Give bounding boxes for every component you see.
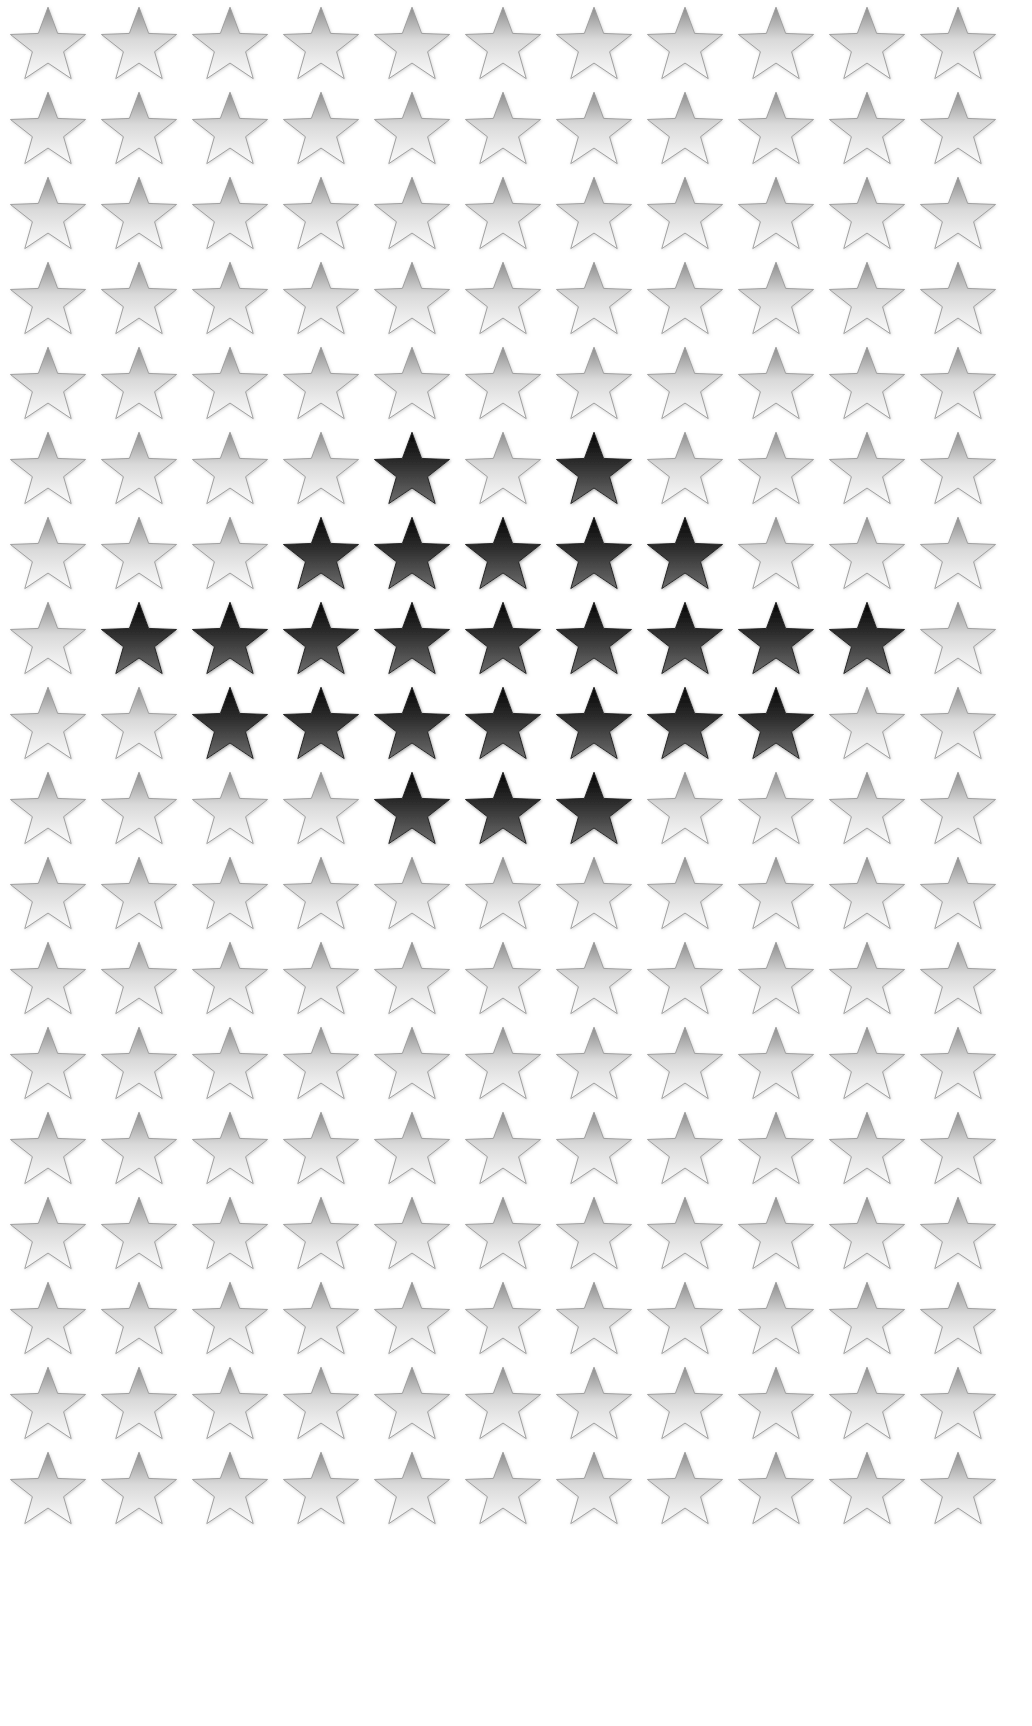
five-pointed-star-icon — [97, 768, 181, 852]
five-pointed-star-icon — [370, 1448, 454, 1532]
five-pointed-star-icon — [279, 1278, 363, 1362]
five-pointed-star-icon — [97, 598, 181, 682]
five-pointed-star-icon — [643, 343, 727, 427]
five-pointed-star-icon — [461, 428, 545, 512]
five-pointed-star-icon — [188, 173, 272, 257]
five-pointed-star-icon — [279, 853, 363, 937]
five-pointed-star-icon — [734, 1023, 818, 1107]
five-pointed-star-icon — [734, 853, 818, 937]
five-pointed-star-icon — [643, 258, 727, 342]
five-pointed-star-icon — [825, 1193, 909, 1277]
five-pointed-star-icon — [552, 853, 636, 937]
five-pointed-star-icon — [643, 1363, 727, 1447]
five-pointed-star-icon — [825, 1108, 909, 1192]
five-pointed-star-icon — [6, 1448, 90, 1532]
five-pointed-star-icon — [97, 513, 181, 597]
five-pointed-star-icon — [279, 258, 363, 342]
five-pointed-star-icon — [188, 1278, 272, 1362]
five-pointed-star-icon — [734, 1193, 818, 1277]
five-pointed-star-icon — [643, 768, 727, 852]
five-pointed-star-icon — [825, 938, 909, 1022]
five-pointed-star-icon — [370, 513, 454, 597]
five-pointed-star-icon — [6, 768, 90, 852]
five-pointed-star-icon — [916, 853, 1000, 937]
five-pointed-star-icon — [825, 1363, 909, 1447]
five-pointed-star-icon — [461, 1363, 545, 1447]
five-pointed-star-icon — [188, 1108, 272, 1192]
five-pointed-star-icon — [643, 1193, 727, 1277]
five-pointed-star-icon — [370, 1278, 454, 1362]
five-pointed-star-icon — [97, 1448, 181, 1532]
five-pointed-star-icon — [279, 1023, 363, 1107]
five-pointed-star-icon — [188, 853, 272, 937]
five-pointed-star-icon — [6, 1023, 90, 1107]
five-pointed-star-icon — [188, 938, 272, 1022]
five-pointed-star-icon — [188, 1363, 272, 1447]
five-pointed-star-icon — [552, 1448, 636, 1532]
five-pointed-star-icon — [188, 1023, 272, 1107]
five-pointed-star-icon — [97, 1363, 181, 1447]
five-pointed-star-icon — [643, 853, 727, 937]
five-pointed-star-icon — [734, 768, 818, 852]
five-pointed-star-icon — [461, 1448, 545, 1532]
five-pointed-star-icon — [643, 938, 727, 1022]
five-pointed-star-icon — [916, 173, 1000, 257]
five-pointed-star-icon — [188, 88, 272, 172]
five-pointed-star-icon — [825, 258, 909, 342]
five-pointed-star-icon — [6, 1278, 90, 1362]
five-pointed-star-icon — [461, 258, 545, 342]
five-pointed-star-icon — [370, 938, 454, 1022]
five-pointed-star-icon — [6, 1363, 90, 1447]
five-pointed-star-icon — [279, 1363, 363, 1447]
five-pointed-star-icon — [370, 3, 454, 87]
five-pointed-star-icon — [279, 598, 363, 682]
five-pointed-star-icon — [461, 343, 545, 427]
five-pointed-star-icon — [188, 598, 272, 682]
five-pointed-star-icon — [825, 598, 909, 682]
five-pointed-star-icon — [188, 258, 272, 342]
five-pointed-star-icon — [6, 428, 90, 512]
five-pointed-star-icon — [188, 1448, 272, 1532]
five-pointed-star-icon — [825, 1023, 909, 1107]
five-pointed-star-icon — [643, 1448, 727, 1532]
five-pointed-star-icon — [97, 343, 181, 427]
five-pointed-star-icon — [643, 173, 727, 257]
five-pointed-star-icon — [825, 683, 909, 767]
five-pointed-star-icon — [916, 683, 1000, 767]
five-pointed-star-icon — [6, 88, 90, 172]
five-pointed-star-icon — [552, 428, 636, 512]
five-pointed-star-icon — [97, 1193, 181, 1277]
five-pointed-star-icon — [916, 768, 1000, 852]
five-pointed-star-icon — [552, 1023, 636, 1107]
five-pointed-star-icon — [97, 1278, 181, 1362]
five-pointed-star-icon — [370, 853, 454, 937]
five-pointed-star-icon — [916, 513, 1000, 597]
five-pointed-star-icon — [916, 1108, 1000, 1192]
five-pointed-star-icon — [461, 1278, 545, 1362]
five-pointed-star-icon — [916, 1448, 1000, 1532]
five-pointed-star-icon — [734, 258, 818, 342]
five-pointed-star-icon — [97, 853, 181, 937]
five-pointed-star-icon — [825, 853, 909, 937]
five-pointed-star-icon — [97, 3, 181, 87]
five-pointed-star-icon — [734, 1363, 818, 1447]
five-pointed-star-icon — [6, 683, 90, 767]
five-pointed-star-icon — [97, 683, 181, 767]
five-pointed-star-icon — [825, 173, 909, 257]
five-pointed-star-icon — [643, 1108, 727, 1192]
five-pointed-star-icon — [734, 598, 818, 682]
five-pointed-star-icon — [916, 598, 1000, 682]
five-pointed-star-icon — [734, 683, 818, 767]
five-pointed-star-icon — [643, 1278, 727, 1362]
five-pointed-star-icon — [734, 1278, 818, 1362]
five-pointed-star-icon — [279, 3, 363, 87]
five-pointed-star-icon — [97, 938, 181, 1022]
five-pointed-star-icon — [188, 768, 272, 852]
five-pointed-star-icon — [370, 598, 454, 682]
five-pointed-star-icon — [552, 258, 636, 342]
five-pointed-star-icon — [916, 88, 1000, 172]
five-pointed-star-icon — [643, 3, 727, 87]
five-pointed-star-icon — [916, 1023, 1000, 1107]
five-pointed-star-icon — [552, 938, 636, 1022]
five-pointed-star-icon — [6, 598, 90, 682]
